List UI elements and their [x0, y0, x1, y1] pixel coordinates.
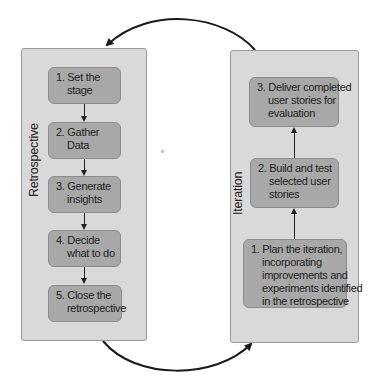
iteration-label: Iteration [231, 172, 245, 215]
retro-step-4: 4. Decide what to do [48, 230, 121, 267]
arrow-iteration-to-retrospective [107, 19, 255, 50]
arrowhead-down-icon [81, 278, 87, 284]
connector-2-3 [294, 131, 295, 158]
connector-1-2 [294, 212, 295, 239]
iteration-step-1: 1. Plan the iteration, incorporating imp… [243, 239, 347, 308]
iteration-step-3: 3. Deliver completed user stories for ev… [249, 77, 339, 127]
retro-step-1: 1. Set the stage [48, 67, 121, 104]
retrospective-panel: Retrospective 1. Set the stage 2. Gather… [21, 48, 147, 341]
retrospective-label: Retrospective [27, 123, 41, 197]
retro-step-3: 3. Generate insights [48, 176, 121, 213]
stray-dot [161, 150, 164, 153]
iteration-step-2: 2. Build and test selected user stories [250, 158, 339, 208]
retro-step-2: 2. Gather Data [48, 122, 121, 159]
iteration-panel: Iteration 3. Deliver completed user stor… [230, 50, 359, 343]
arrow-retrospective-to-iteration [103, 341, 251, 371]
retro-step-5: 5. Close the retrospective [48, 285, 122, 322]
